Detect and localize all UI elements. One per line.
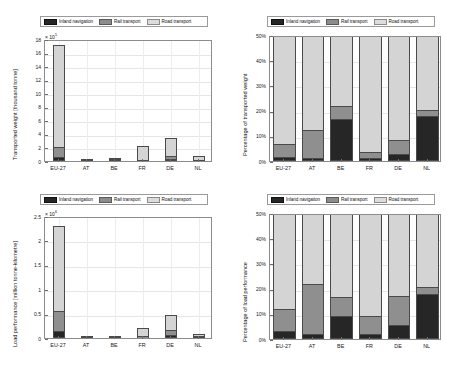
bar-segment-road-transport[interactable] (388, 36, 410, 140)
bar-segment-road-transport[interactable] (416, 36, 438, 110)
bar-segment-road-transport[interactable] (359, 214, 381, 316)
bar-segment-rail-transport[interactable] (359, 316, 381, 335)
y-tick-mark (45, 94, 48, 95)
bar-segment-road-transport[interactable] (416, 214, 438, 287)
y-tick-mark (270, 290, 273, 291)
bar-segment-road-transport[interactable] (273, 214, 295, 309)
bar-segment-inland-navigation[interactable] (330, 119, 352, 161)
legend-swatch-inland-icon (271, 19, 284, 25)
legend-swatch-road-icon (374, 19, 387, 25)
stacked-bar[interactable] (81, 40, 94, 161)
y-tick-mark (45, 135, 48, 136)
legend-label-inland: Inland navigation (286, 197, 320, 202)
legend-label-rail: Rail transport (341, 19, 368, 24)
legend-bottom-left: Inland navigation Rail transport Road tr… (40, 194, 208, 205)
stacked-bar[interactable] (109, 40, 122, 161)
legend-label-rail: Rail transport (114, 197, 141, 202)
y-tick-label: 30% (243, 262, 266, 267)
legend-entry-road: Road transport (147, 19, 192, 25)
x-tick-mark (312, 159, 313, 162)
bar-segment-road-transport[interactable] (137, 146, 150, 159)
y-tick-label: 10 (18, 92, 41, 97)
bar-segment-rail-transport[interactable] (302, 130, 324, 159)
y-gridline (270, 316, 440, 317)
y-gridline (270, 291, 440, 292)
legend-swatch-rail-icon (99, 197, 112, 203)
bar-segment-rail-transport[interactable] (330, 106, 352, 120)
bar-segment-rail-transport[interactable] (302, 284, 324, 334)
bar-segment-inland-navigation[interactable] (330, 316, 352, 339)
stacked-bar[interactable] (302, 36, 324, 161)
bar-segment-road-transport[interactable] (302, 36, 324, 130)
x-tick-mark (142, 159, 143, 162)
stacked-bar[interactable] (330, 36, 352, 161)
y-tick-mark (270, 239, 273, 240)
y-gridline (270, 265, 440, 266)
y-tick-mark (45, 81, 48, 82)
x-tick-mark (198, 159, 199, 162)
stacked-bar[interactable] (165, 217, 178, 338)
bar-segment-rail-transport[interactable] (273, 144, 295, 157)
y-tick-mark (270, 137, 273, 138)
x-tick-mark (114, 336, 115, 339)
x-tick-mark (312, 337, 313, 340)
y-gridline (45, 109, 211, 110)
stacked-bar[interactable] (416, 36, 438, 161)
stacked-bar[interactable] (81, 217, 94, 338)
bar-segment-rail-transport[interactable] (53, 147, 66, 157)
legend-swatch-rail-icon (326, 19, 339, 25)
stacked-bar[interactable] (193, 217, 206, 338)
bar-segment-road-transport[interactable] (53, 45, 66, 147)
y-exponent-base: × 10 (45, 211, 55, 217)
bar-segment-inland-navigation[interactable] (416, 294, 438, 339)
stacked-bar[interactable] (359, 214, 381, 339)
stacked-bar[interactable] (359, 36, 381, 161)
stacked-bar[interactable] (330, 214, 352, 339)
stacked-bar[interactable] (109, 217, 122, 338)
stacked-bar[interactable] (165, 40, 178, 161)
stacked-bar[interactable] (302, 214, 324, 339)
stacked-bar[interactable] (416, 214, 438, 339)
stacked-bar[interactable] (193, 40, 206, 161)
bar-segment-road-transport[interactable] (330, 36, 352, 106)
plot-area-bottom-right (269, 214, 441, 340)
y-tick-label: 1 (18, 288, 41, 293)
y-tick-label: 6 (18, 119, 41, 124)
y-tick-mark (45, 266, 48, 267)
stacked-bar[interactable] (137, 40, 150, 161)
bar-segment-rail-transport[interactable] (330, 297, 352, 316)
bar-segment-road-transport[interactable] (330, 214, 352, 297)
stacked-bar[interactable] (388, 36, 410, 161)
stacked-bar[interactable] (273, 214, 295, 339)
y-tick-mark (270, 86, 273, 87)
y-tick-mark (45, 108, 48, 109)
y-exponent-power: 5 (55, 33, 57, 37)
y-tick-mark (45, 339, 48, 340)
bar-segment-inland-navigation[interactable] (416, 116, 438, 161)
stacked-bar[interactable] (137, 217, 150, 338)
stacked-bar[interactable] (53, 40, 66, 161)
bar-segment-rail-transport[interactable] (273, 309, 295, 331)
y-gridline (45, 136, 211, 137)
bar-segment-road-transport[interactable] (53, 226, 66, 310)
bar-segment-rail-transport[interactable] (388, 140, 410, 154)
y-tick-mark (45, 40, 48, 41)
stacked-bar[interactable] (273, 36, 295, 161)
stacked-bar[interactable] (388, 214, 410, 339)
y-tick-label: 1.5 (18, 263, 41, 268)
legend-label-inland: Inland navigation (286, 19, 320, 24)
x-tick-mark (283, 337, 284, 340)
stacked-bar[interactable] (53, 217, 66, 338)
bar-segment-road-transport[interactable] (273, 36, 295, 144)
bar-segment-road-transport[interactable] (137, 328, 150, 336)
y-gridline (270, 113, 440, 114)
y-gridline (45, 267, 211, 268)
bar-segment-road-transport[interactable] (388, 214, 410, 296)
bar-segment-road-transport[interactable] (302, 214, 324, 284)
bar-segment-road-transport[interactable] (359, 36, 381, 152)
y-tick-mark (45, 290, 48, 291)
bar-segment-road-transport[interactable] (165, 138, 178, 156)
bar-segment-rail-transport[interactable] (388, 296, 410, 325)
bar-segment-rail-transport[interactable] (53, 311, 66, 332)
bar-segment-road-transport[interactable] (165, 315, 178, 330)
